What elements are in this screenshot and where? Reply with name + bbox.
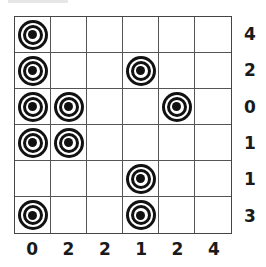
clipped-title-text — [8, 0, 68, 3]
grid-cell-r4-c3[interactable] — [123, 161, 159, 197]
grid-cell-r5-c4[interactable] — [159, 197, 195, 233]
grid-cell-r2-c2[interactable] — [87, 89, 123, 125]
bullseye-target-icon — [18, 200, 48, 230]
grid-cell-r4-c0[interactable] — [15, 161, 51, 197]
column-clue: 0 — [14, 234, 50, 264]
grid-cell-r1-c1[interactable] — [51, 53, 87, 89]
grid-cell-r3-c5[interactable] — [195, 125, 231, 161]
grid-cell-r4-c2[interactable] — [87, 161, 123, 197]
grid-cell-r5-c2[interactable] — [87, 197, 123, 233]
grid-cell-r2-c0[interactable] — [15, 89, 51, 125]
row-clue: 3 — [238, 198, 262, 234]
grid-cell-r5-c0[interactable] — [15, 197, 51, 233]
grid-cell-r1-c0[interactable] — [15, 53, 51, 89]
grid-cell-r1-c2[interactable] — [87, 53, 123, 89]
grid-cell-r0-c4[interactable] — [159, 17, 195, 53]
bullseye-target-icon — [18, 128, 48, 158]
bullseye-target-icon — [18, 56, 48, 86]
grid-cell-r0-c0[interactable] — [15, 17, 51, 53]
bullseye-target-icon — [126, 200, 156, 230]
bullseye-target-icon — [54, 128, 84, 158]
bullseye-target-icon — [126, 164, 156, 194]
column-clue: 2 — [87, 234, 123, 264]
row-clue: 1 — [238, 161, 262, 197]
grid-cell-r1-c3[interactable] — [123, 53, 159, 89]
grid-cell-r5-c1[interactable] — [51, 197, 87, 233]
grid-cell-r3-c4[interactable] — [159, 125, 195, 161]
grid-cell-r0-c2[interactable] — [87, 17, 123, 53]
grid-cell-r2-c4[interactable] — [159, 89, 195, 125]
row-clue: 4 — [238, 16, 262, 52]
bullseye-target-icon — [18, 20, 48, 50]
grid-cell-r0-c5[interactable] — [195, 17, 231, 53]
grid-cell-r2-c3[interactable] — [123, 89, 159, 125]
column-clues: 022124 — [14, 234, 232, 264]
column-clue: 4 — [196, 234, 232, 264]
grid-cell-r2-c1[interactable] — [51, 89, 87, 125]
row-clue: 1 — [238, 125, 262, 161]
grid-cell-r3-c3[interactable] — [123, 125, 159, 161]
grid-cell-r4-c4[interactable] — [159, 161, 195, 197]
row-clue: 2 — [238, 52, 262, 88]
column-clue: 2 — [159, 234, 195, 264]
column-clue: 2 — [50, 234, 86, 264]
bullseye-target-icon — [126, 56, 156, 86]
grid-cell-r4-c5[interactable] — [195, 161, 231, 197]
grid-cell-r0-c1[interactable] — [51, 17, 87, 53]
grid-cell-r4-c1[interactable] — [51, 161, 87, 197]
row-clue: 0 — [238, 89, 262, 125]
bullseye-target-icon — [162, 92, 192, 122]
grid-cell-r3-c1[interactable] — [51, 125, 87, 161]
grid-cell-r1-c4[interactable] — [159, 53, 195, 89]
bullseye-target-icon — [18, 92, 48, 122]
grid-cell-r5-c3[interactable] — [123, 197, 159, 233]
grid-cell-r1-c5[interactable] — [195, 53, 231, 89]
grid-cell-r5-c5[interactable] — [195, 197, 231, 233]
grid-cell-r0-c3[interactable] — [123, 17, 159, 53]
row-clues: 420113 — [238, 16, 262, 234]
grid-cell-r3-c2[interactable] — [87, 125, 123, 161]
column-clue: 1 — [123, 234, 159, 264]
puzzle-grid — [14, 16, 232, 234]
bullseye-target-icon — [54, 92, 84, 122]
grid-cell-r3-c0[interactable] — [15, 125, 51, 161]
grid-cell-r2-c5[interactable] — [195, 89, 231, 125]
